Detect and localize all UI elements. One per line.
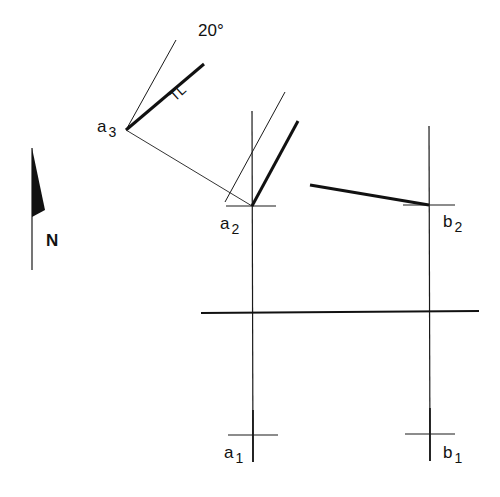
descriptive-geometry-diagram: N 20° TL a3 a2 b2 a1 b1: [0, 0, 500, 497]
north-arrow-head-icon: [32, 148, 45, 217]
true-length-label: TL: [166, 81, 189, 104]
point-label-a1: a1: [224, 443, 243, 466]
projector-a: [252, 111, 253, 462]
point-label-a2: a2: [220, 214, 239, 237]
view-1: a1 b1: [224, 408, 462, 466]
point-label-b1: b1: [443, 443, 462, 466]
point-label-b2: b2: [443, 212, 462, 235]
thin-diagonal-a2: [225, 92, 285, 202]
angle-reference-line: [126, 40, 176, 130]
view-a2: a2: [220, 92, 298, 462]
view-b2: b2: [310, 126, 462, 461]
point-label-a3: a3: [97, 117, 116, 140]
thick-line-b2: [310, 185, 429, 205]
true-length-line: [126, 64, 204, 130]
north-label: N: [46, 231, 58, 250]
projection-line-a3-a2: [126, 130, 252, 206]
folding-line: [201, 311, 479, 313]
auxiliary-view-a3: 20° TL a3: [97, 21, 252, 206]
thick-line-a2: [252, 121, 298, 206]
north-arrow: N: [32, 148, 58, 270]
angle-label: 20°: [198, 21, 224, 40]
